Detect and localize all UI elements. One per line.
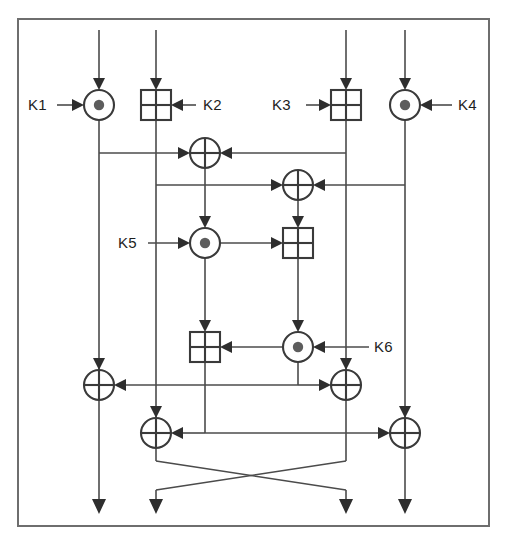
arrow-k6 [313,341,325,353]
multiply-circle-k4 [390,90,420,120]
arrow-into-xor1-right [220,147,232,159]
arrow-k5-to-add [271,237,283,249]
add-square-k3 [331,90,361,120]
arrow-into-add-mangler-upper [292,216,304,228]
add-square-mangler-upper [283,228,313,258]
add-square-mangler-lower [190,332,220,362]
arrow-into-op-k5 [199,216,211,228]
arrow-into-op-k4 [399,78,411,90]
idea-round-diagram: K1 K2 K3 K4 K5 K6 [0,0,507,539]
multiply-circle-k5 [190,228,220,258]
arrow-k3 [319,99,331,111]
arrow-down-into-xor-out-2 [150,406,162,418]
key-label-k5: K5 [118,234,137,251]
arrow-into-op-k3 [340,78,352,90]
xor-circle-out-2 [141,418,171,448]
arrow-k4 [420,99,432,111]
output-arrow-1 [92,499,106,514]
xor-circle-upper [190,138,220,168]
key-label-k2: K2 [203,96,222,113]
arrow-k6-to-add [220,341,232,353]
arrow-down-into-xor-out-3 [340,358,352,370]
xor-circle-second [283,170,313,200]
arrow-into-op-k2 [150,78,162,90]
arrow-into-xor-out-1 [114,379,126,391]
arrow-into-xor2-right [313,179,325,191]
output-arrow-4 [398,499,412,514]
arrow-into-xor-out-2 [171,427,183,439]
output-arrow-2 [149,499,163,514]
arrow-k5 [178,237,190,249]
key-label-k6: K6 [374,338,393,355]
arrow-into-xor1-left [178,147,190,159]
key-label-k3: K3 [272,96,291,113]
arrow-into-xor2-left [271,179,283,191]
arrow-k1 [72,99,84,111]
xor-circle-out-4 [390,418,420,448]
multiply-circle-k6 [283,332,313,362]
add-square-k2 [141,90,171,120]
arrow-into-op-k6 [292,320,304,332]
multiply-circle-k1 [84,90,114,120]
xor-circle-out-1 [84,370,114,400]
arrow-into-add-mangler-lower [199,320,211,332]
output-arrow-3 [339,499,353,514]
xor-circle-out-3 [331,370,361,400]
arrow-into-xor-out-3 [319,379,331,391]
key-label-k4: K4 [458,96,477,113]
arrow-down-into-xor-out-4 [399,406,411,418]
key-label-k1: K1 [28,96,47,113]
arrow-down-into-xor-out-1 [93,358,105,370]
arrow-into-xor-out-4 [378,427,390,439]
arrow-k2 [171,99,183,111]
arrow-into-op-k1 [93,78,105,90]
diagram-canvas: K1 K2 K3 K4 K5 K6 [0,0,507,539]
